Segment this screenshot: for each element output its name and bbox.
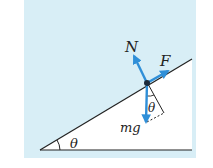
label-normal-force: N <box>124 38 139 56</box>
label-weight: mg <box>120 120 141 135</box>
label-weight-angle: θ <box>148 101 156 115</box>
label-applied-force: F <box>159 52 171 70</box>
incline-diagram: N F mg θ θ <box>0 0 213 168</box>
weight-arrow <box>146 83 147 122</box>
block-point <box>144 80 150 86</box>
label-incline-angle: θ <box>70 136 78 151</box>
